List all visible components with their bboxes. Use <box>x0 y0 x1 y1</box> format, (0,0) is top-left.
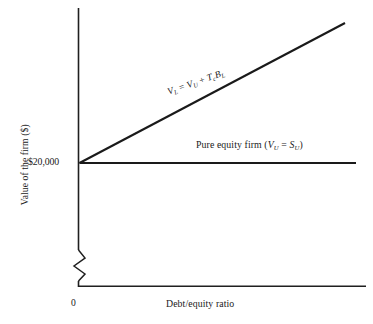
pure-equity-text: Pure equity firm ( <box>196 139 268 150</box>
pure-equity-close-paren: ) <box>299 139 302 150</box>
figure-container: Value of the firm ($) $20,000 0 Debt/equ… <box>0 0 373 324</box>
origin-label: 0 <box>71 298 76 308</box>
y-axis-break-icon <box>74 250 85 281</box>
pure-equity-equals-sign: = <box>279 139 290 150</box>
annotation-pure-equity-firm-label: Pure equity firm (VU = SU) <box>196 140 303 150</box>
pure-equity-v-subscript: U <box>274 144 279 151</box>
y-axis-tick-label-20000: $20,000 <box>28 157 59 167</box>
pure-equity-v-symbol: V <box>268 139 274 150</box>
x-axis-title: Debt/equity ratio <box>166 299 234 309</box>
pure-equity-s-subscript: U <box>294 144 299 151</box>
